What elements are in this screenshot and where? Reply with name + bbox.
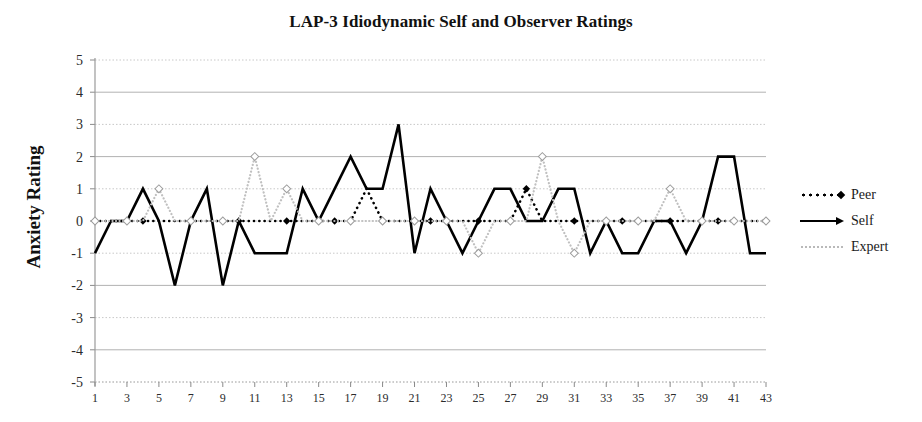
svg-text:-4: -4: [71, 343, 83, 358]
svg-text:29: 29: [536, 391, 548, 405]
svg-text:37: 37: [664, 391, 676, 405]
peer-line-icon: [800, 188, 844, 202]
svg-text:3: 3: [76, 117, 83, 132]
svg-text:1: 1: [92, 391, 98, 405]
legend-item-expert[interactable]: Expert: [800, 234, 920, 260]
x-tick-labels: 135791113151719212325272931333537394143: [92, 391, 772, 405]
svg-text:-2: -2: [71, 278, 83, 293]
svg-text:41: 41: [728, 391, 740, 405]
svg-text:19: 19: [377, 391, 389, 405]
expert-line-icon: [800, 240, 844, 254]
svg-text:-3: -3: [71, 311, 83, 326]
chart-container: LAP-3 Idiodynamic Self and Observer Rati…: [0, 0, 922, 422]
svg-text:43: 43: [760, 391, 772, 405]
svg-text:13: 13: [281, 391, 293, 405]
svg-text:3: 3: [124, 391, 130, 405]
svg-text:21: 21: [409, 391, 421, 405]
svg-text:35: 35: [632, 391, 644, 405]
legend-item-peer[interactable]: Peer: [800, 182, 920, 208]
plot-area: 543210-1-2-3-4-5 13579111315171921232527…: [0, 0, 922, 422]
svg-text:33: 33: [600, 391, 612, 405]
y-tick-labels: 543210-1-2-3-4-5: [71, 53, 83, 390]
legend-label-expert: Expert: [851, 239, 888, 255]
data-series: [91, 124, 770, 285]
legend-label-self: Self: [851, 213, 874, 229]
svg-text:11: 11: [249, 391, 261, 405]
svg-text:27: 27: [504, 391, 516, 405]
svg-text:5: 5: [76, 53, 83, 68]
svg-text:31: 31: [568, 391, 580, 405]
svg-text:7: 7: [188, 391, 194, 405]
svg-text:2: 2: [76, 150, 83, 165]
svg-text:15: 15: [313, 391, 325, 405]
self-line-icon: [800, 214, 844, 228]
legend-item-self[interactable]: Self: [800, 208, 920, 234]
svg-text:23: 23: [440, 391, 452, 405]
chart-legend: Peer Self Expert: [800, 182, 920, 260]
svg-text:-1: -1: [71, 246, 83, 261]
svg-text:39: 39: [696, 391, 708, 405]
svg-text:9: 9: [220, 391, 226, 405]
legend-label-peer: Peer: [851, 187, 876, 203]
svg-text:5: 5: [156, 391, 162, 405]
svg-text:0: 0: [76, 214, 83, 229]
svg-text:17: 17: [345, 391, 357, 405]
svg-text:25: 25: [472, 391, 484, 405]
svg-text:4: 4: [76, 85, 83, 100]
svg-text:-5: -5: [71, 375, 83, 390]
svg-text:1: 1: [76, 182, 83, 197]
